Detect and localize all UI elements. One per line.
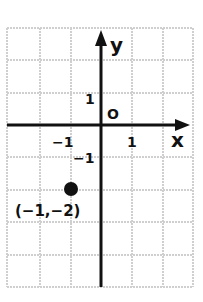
y-tick-label-neg1: −1 xyxy=(73,150,94,166)
origin-label: O xyxy=(107,106,119,122)
y-tick-label-1: 1 xyxy=(85,91,95,107)
point-label: (−1,−2) xyxy=(15,202,80,220)
plotted-point xyxy=(64,182,78,196)
x-axis-label: x xyxy=(171,128,184,152)
coordinate-plane: y x O 1 1 −1 −1 (−1,−2) xyxy=(0,0,203,302)
x-tick-label-1: 1 xyxy=(127,134,137,150)
y-axis-label: y xyxy=(110,33,123,57)
x-tick-label-neg1: −1 xyxy=(52,134,73,150)
y-axis-arrow-icon xyxy=(95,30,107,46)
y-axis xyxy=(95,30,107,287)
x-axis xyxy=(7,119,190,131)
